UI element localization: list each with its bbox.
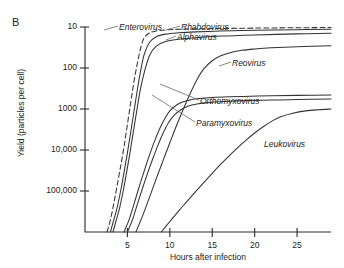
curve-orthomyxovirus [124, 95, 331, 232]
curve-alphavirus [113, 33, 331, 232]
curve-paramyxovirus [127, 99, 331, 232]
curve-enterovirus [107, 28, 331, 232]
curve-leukovirus [161, 109, 331, 232]
curve-rhabdovirus [110, 29, 331, 232]
curve-reovirus [136, 46, 331, 232]
plot-canvas [0, 0, 344, 268]
growth-curve-figure: B Yield (particles per cell) Hours after… [0, 0, 344, 268]
